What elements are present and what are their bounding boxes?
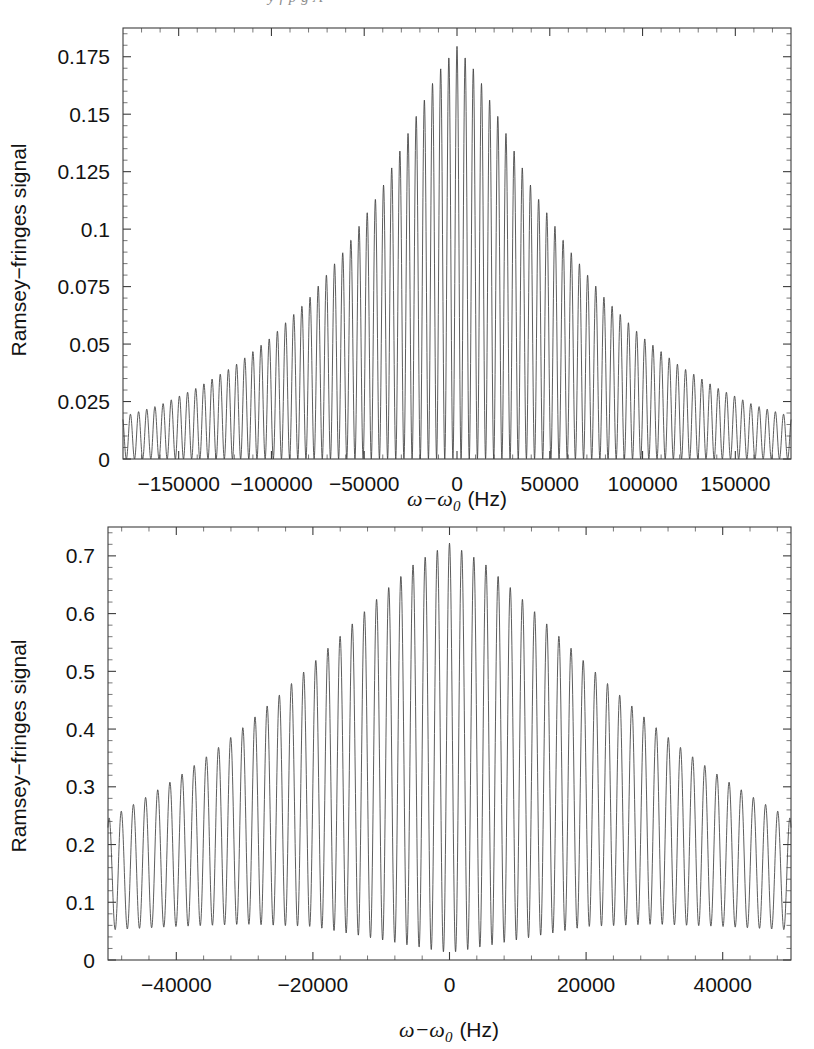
top-plot-ylabel: Ramsey−fringes signal: [7, 143, 30, 356]
bottom-plot-x-ticklabels: −40000−2000002000040000: [141, 973, 752, 996]
bottom-plot-xlabel-subscript: 0: [445, 1029, 453, 1045]
chart-panel-top: Ramsey−fringes signal 00.0250.050.0750.1…: [0, 8, 814, 518]
y-ticklabel: 0: [83, 949, 95, 972]
y-ticklabel: 0.175: [57, 45, 110, 68]
top-plot-svg: Ramsey−fringes signal 00.0250.050.0750.1…: [0, 8, 814, 518]
x-ticklabel: 0: [451, 472, 463, 495]
top-plot-x-ticklabels: −150000−100000−50000050000100000150000: [137, 472, 770, 495]
bottom-plot-ylabel: Ramsey−fringes signal: [7, 639, 30, 852]
x-ticklabel: −20000: [278, 973, 349, 996]
bottom-plot-xlabel-symbol: ω−ω: [399, 1017, 445, 1042]
x-ticklabel: −40000: [141, 973, 212, 996]
ramsey-fringes-figure: Ramsey−fringes signal 00.0250.050.0750.1…: [0, 0, 814, 1049]
x-ticklabel: 40000: [693, 973, 751, 996]
bottom-plot-curve: [108, 543, 791, 952]
chart-panel-bottom: Ramsey−fringes signal 00.10.20.30.40.50.…: [0, 518, 814, 1049]
y-ticklabel: 0.7: [66, 544, 95, 567]
bottom-plot-ylabel-group: Ramsey−fringes signal: [7, 639, 30, 852]
bottom-plot-xlabel-unit: (Hz): [459, 1018, 499, 1041]
x-ticklabel: 0: [444, 973, 456, 996]
x-ticklabel: −50000: [329, 472, 400, 495]
bottom-plot-svg: Ramsey−fringes signal 00.10.20.30.40.50.…: [0, 518, 814, 1049]
top-plot-xlabel-subscript: 0: [453, 498, 461, 514]
x-ticklabel: 50000: [521, 472, 579, 495]
top-plot-frame: [123, 28, 791, 459]
x-ticklabel: 100000: [608, 472, 678, 495]
x-ticklabel: −150000: [137, 472, 219, 495]
y-ticklabel: 0.05: [69, 333, 110, 356]
y-ticklabel: 0: [98, 448, 110, 471]
bottom-plot-y-ticklabels: 00.10.20.30.40.50.60.7: [66, 544, 96, 971]
y-ticklabel: 0.4: [66, 718, 96, 741]
y-ticklabel: 0.15: [69, 103, 110, 126]
y-ticklabel: 0.025: [57, 390, 110, 413]
y-ticklabel: 0.6: [66, 602, 95, 625]
x-ticklabel: 20000: [557, 973, 615, 996]
bottom-plot-xlabel-group: ω−ω0(Hz): [399, 1017, 499, 1045]
top-plot-y-ticklabels: 00.0250.050.0750.10.1250.150.175: [57, 45, 110, 470]
y-ticklabel: 0.075: [57, 275, 110, 298]
x-ticklabel: −100000: [230, 472, 312, 495]
top-plot-tickmarks: [123, 28, 791, 459]
y-ticklabel: 0.125: [57, 160, 110, 183]
y-ticklabel: 0.1: [66, 891, 95, 914]
y-ticklabel: 0.5: [66, 660, 95, 683]
y-ticklabel: 0.1: [81, 218, 110, 241]
bottom-plot-xlabel: ω−ω0(Hz): [399, 1017, 499, 1045]
x-ticklabel: 150000: [700, 472, 770, 495]
top-plot-ylabel-group: Ramsey−fringes signal: [7, 143, 30, 356]
y-ticklabel: 0.3: [66, 775, 95, 798]
top-plot-xlabel-unit: (Hz): [467, 487, 507, 510]
top-plot-xlabel-symbol: ω−ω: [407, 486, 453, 511]
y-ticklabel: 0.2: [66, 833, 95, 856]
top-plot-curve: [123, 46, 791, 459]
